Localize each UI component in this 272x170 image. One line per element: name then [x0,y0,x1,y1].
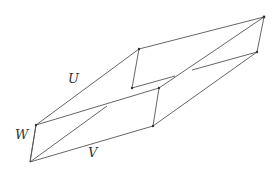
vertex-g [152,125,154,127]
vertex-h [131,87,133,89]
edge-back-right [257,17,264,52]
diagram-canvas: U W V [0,0,272,170]
edge-top-back [139,17,264,49]
edge-front-top [36,88,159,125]
edge-top-right [159,17,264,88]
vertex-b [35,124,37,126]
label-u: U [68,71,79,86]
edge-u [36,49,139,125]
parallelepiped-drawing [0,0,272,170]
vertex-e [158,87,160,89]
edge-front-right [153,88,159,126]
vertex-f [256,51,258,53]
edge-bottom-right [153,52,257,126]
vertex-c [138,48,140,50]
edge-w-dup [30,125,36,162]
edge-inner-vertical [132,49,139,88]
edge-inner-seg2 [192,52,257,70]
label-w: W [15,127,28,142]
vertex-d [263,16,266,19]
label-v: V [88,145,97,160]
